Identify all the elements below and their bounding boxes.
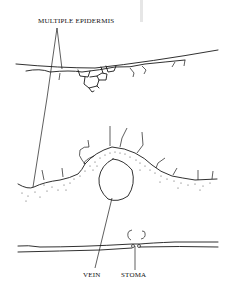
label-vein: VEIN bbox=[83, 271, 101, 279]
middle-section-vein bbox=[18, 126, 217, 202]
label-multiple-epidermis: MULTIPLE EPIDERMIS bbox=[38, 17, 114, 25]
epidermis-leader-lines bbox=[33, 28, 62, 187]
scan-artifact bbox=[140, 0, 143, 22]
label-stoma: STOMA bbox=[121, 271, 146, 279]
vein-outline bbox=[99, 159, 133, 200]
vein-leader-line bbox=[95, 198, 112, 268]
upper-section bbox=[16, 50, 218, 92]
lower-section-stoma bbox=[18, 230, 218, 270]
